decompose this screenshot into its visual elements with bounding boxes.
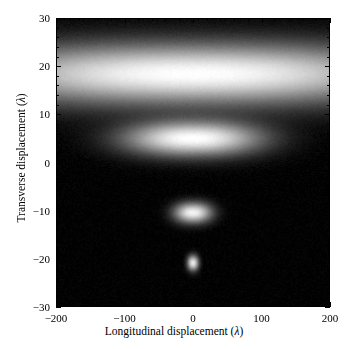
axis-tick [325, 307, 330, 308]
x-tick-label: 0 [190, 312, 196, 324]
x-axis-title: Longitudinal displacement (λ) [0, 325, 348, 337]
x-tick-label: 100 [253, 312, 270, 324]
axis-tick [330, 302, 331, 307]
y-tick-label: 30 [12, 12, 50, 24]
x-tick-label: −100 [113, 312, 136, 324]
density-heatmap-canvas [57, 19, 329, 306]
x-tick-label: −200 [45, 312, 68, 324]
axis-tick [56, 307, 61, 308]
y-tick-label: −30 [12, 301, 50, 313]
density-plot-figure: −200−10001002003020100−10−20−30 Longitud… [0, 0, 348, 349]
y-axis-title: Transverse displacement (λ) [15, 58, 27, 258]
plot-frame [56, 18, 330, 307]
x-tick-label: 200 [322, 312, 339, 324]
axis-tick [330, 18, 331, 23]
